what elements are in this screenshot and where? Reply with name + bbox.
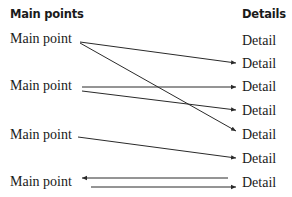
arrow-mp2-detail4 <box>82 91 236 110</box>
arrow-mp3-detail6 <box>78 137 236 158</box>
connector-lines <box>0 0 292 197</box>
arrow-mp1-detail2 <box>80 42 236 63</box>
